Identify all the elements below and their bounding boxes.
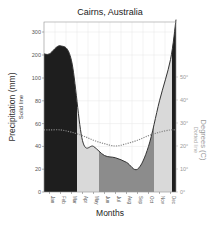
month-label: Dec [171, 196, 176, 205]
right-tick-label: 40° [180, 97, 188, 103]
y-axis-label: Precipitation (mm) [7, 72, 17, 141]
climate-chart: Cairns, Australia 020406080100200300 0°1… [0, 0, 218, 227]
month-label: Aug [127, 196, 132, 205]
left-tick-label: 80 [35, 98, 41, 104]
y-axis-sublabel: Solid line [18, 94, 24, 119]
y2-axis-sublabel: Dotted line [193, 127, 199, 153]
left-tick-label: 300 [32, 29, 41, 35]
left-tick-label: 200 [32, 52, 41, 58]
region-band [44, 22, 77, 192]
left-tick-label: 0 [38, 189, 41, 195]
month-label: Feb [61, 196, 66, 204]
right-tick-label: 30° [180, 120, 188, 126]
month-label: Apr [83, 196, 88, 204]
month-label: Nov [160, 196, 165, 205]
region-band [99, 22, 154, 192]
left-tick-label: 100 [32, 75, 41, 81]
right-tick-label: 50° [180, 74, 188, 80]
left-tick-label: 20 [35, 166, 41, 172]
right-tick-label: 20° [180, 143, 188, 149]
month-label: Oct [149, 196, 154, 204]
left-tick-label: 60 [35, 121, 41, 127]
y2-axis-label: Degrees (C) [199, 120, 208, 161]
left-axis-ticks: 020406080100200300 [32, 29, 44, 195]
left-tick-label: 40 [35, 143, 41, 149]
region-band [154, 22, 172, 192]
month-ticks: JanFebMarAprMayJunJulAugSepOctNovDec [50, 192, 177, 205]
month-label: Jul [116, 196, 121, 202]
chart-title: Cairns, Australia [77, 7, 143, 17]
month-label: Sep [138, 196, 143, 205]
right-axis-ticks: 0°10°20°30°40°50° [176, 74, 188, 195]
right-tick-label: 10° [180, 166, 188, 172]
x-axis-label: Months [96, 208, 124, 218]
month-label: Jan [50, 196, 55, 204]
month-label: May [94, 196, 99, 205]
right-tick-label: 0° [180, 189, 185, 195]
month-label: Jun [105, 196, 110, 204]
month-label: Mar [72, 196, 77, 204]
